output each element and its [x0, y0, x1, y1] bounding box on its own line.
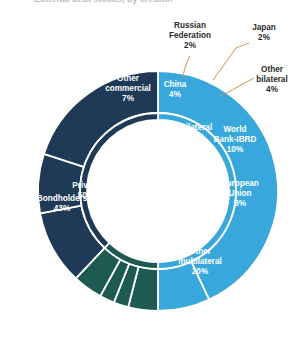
leader-line-japan: [213, 43, 249, 80]
callout-label-russian-federation: RussianFederation2%: [169, 21, 211, 50]
chart-page: External debt stocks, by creditor Privat…: [0, 0, 305, 340]
inner-ring: [80, 113, 236, 269]
callout-label-other-bilateral: Otherbilateral4%: [256, 65, 287, 94]
nested-donut-chart: Private50%Bilateral12%Multilateral38%Bon…: [0, 0, 305, 340]
inner-label-multilateral: Multilateral38%: [168, 203, 211, 222]
callout-label-japan: Japan2%: [252, 23, 276, 42]
leader-line-other-bilateral: [221, 78, 254, 96]
